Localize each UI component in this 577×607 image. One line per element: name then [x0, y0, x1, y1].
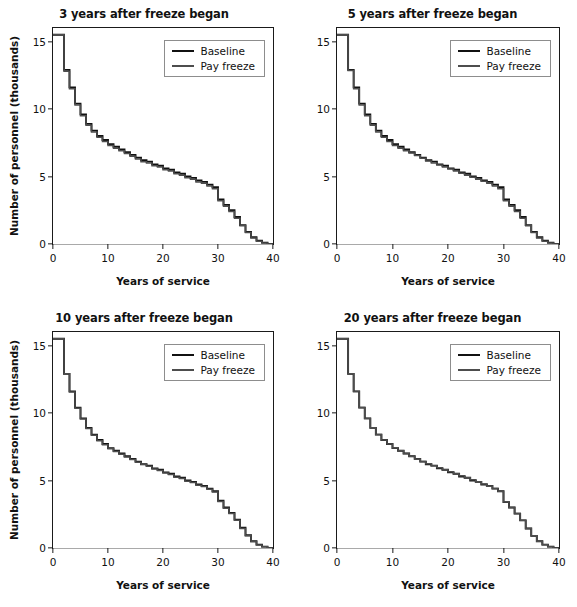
legend-label: Pay freeze [200, 365, 255, 376]
panel-20-years: 20 years after freeze began 051015010203… [288, 304, 577, 607]
plot-area: 051015010203040BaselinePay freeze [52, 27, 274, 245]
panel-10-years: 10 years after freeze began Number of pe… [0, 304, 288, 607]
legend: BaselinePay freeze [450, 344, 551, 381]
legend-item[interactable]: Baseline [458, 46, 541, 57]
x-tick-label: 30 [497, 548, 510, 568]
x-tick-label: 30 [211, 548, 224, 568]
y-axis-label-text: Number of personnel (thousands) [8, 340, 20, 540]
legend-label: Baseline [200, 46, 245, 57]
legend-line-swatch-icon [172, 50, 194, 52]
x-tick-label: 40 [552, 548, 565, 568]
legend-line-swatch-icon [458, 354, 480, 356]
x-tick-label: 30 [211, 244, 224, 264]
legend-label: Baseline [200, 350, 245, 361]
panel-5-years: 5 years after freeze began 0510150102030… [288, 0, 577, 304]
y-tick-label: 5 [39, 475, 53, 487]
legend-item[interactable]: Pay freeze [458, 61, 541, 72]
legend: BaselinePay freeze [450, 40, 551, 77]
legend-label: Pay freeze [200, 61, 255, 72]
legend-label: Pay freeze [486, 61, 541, 72]
legend-label: Baseline [486, 350, 531, 361]
panel-title: 5 years after freeze began [288, 7, 577, 21]
plot-area: 051015010203040BaselinePay freeze [336, 331, 560, 549]
y-axis-label: Number of personnel (thousands) [6, 331, 22, 549]
x-tick-label: 0 [50, 548, 57, 568]
legend-item[interactable]: Baseline [172, 350, 255, 361]
x-tick-label: 10 [101, 244, 114, 264]
x-axis-label: Years of service [336, 579, 560, 591]
y-axis-label-text: Number of personnel (thousands) [8, 36, 20, 236]
y-tick-label: 5 [323, 171, 337, 183]
panel-title: 20 years after freeze began [288, 311, 577, 325]
legend-line-swatch-icon [172, 369, 194, 371]
legend-item[interactable]: Pay freeze [172, 61, 255, 72]
y-tick-label: 10 [33, 103, 53, 115]
panel-title: 10 years after freeze began [0, 311, 288, 325]
legend: BaselinePay freeze [164, 40, 265, 77]
legend-label: Pay freeze [486, 365, 541, 376]
y-tick-label: 5 [39, 171, 53, 183]
x-tick-label: 20 [156, 548, 169, 568]
x-tick-label: 40 [266, 548, 279, 568]
legend-line-swatch-icon [458, 369, 480, 371]
x-tick-label: 10 [101, 548, 114, 568]
legend-item[interactable]: Baseline [458, 350, 541, 361]
x-tick-label: 0 [50, 244, 57, 264]
y-tick-label: 15 [317, 340, 337, 352]
y-tick-label: 10 [317, 407, 337, 419]
plot-area: 051015010203040BaselinePay freeze [52, 331, 274, 549]
y-tick-label: 10 [317, 103, 337, 115]
x-tick-label: 0 [334, 548, 341, 568]
y-axis-label: Number of personnel (thousands) [6, 27, 22, 245]
y-tick-label: 15 [33, 340, 53, 352]
x-axis-label: Years of service [336, 275, 560, 287]
y-tick-label: 5 [323, 475, 337, 487]
legend-line-swatch-icon [172, 354, 194, 356]
y-tick-label: 15 [33, 36, 53, 48]
x-tick-label: 20 [156, 244, 169, 264]
legend-item[interactable]: Pay freeze [458, 365, 541, 376]
legend-item[interactable]: Pay freeze [172, 365, 255, 376]
x-tick-label: 20 [441, 548, 454, 568]
x-tick-label: 30 [497, 244, 510, 264]
x-tick-label: 10 [386, 244, 399, 264]
panel-title: 3 years after freeze began [0, 7, 288, 21]
legend-label: Baseline [486, 46, 531, 57]
x-tick-label: 40 [552, 244, 565, 264]
y-tick-label: 10 [33, 407, 53, 419]
legend-line-swatch-icon [172, 65, 194, 67]
y-tick-label: 15 [317, 36, 337, 48]
panel-3-years: 3 years after freeze began Number of per… [0, 0, 288, 304]
x-axis-label: Years of service [52, 275, 274, 287]
legend-line-swatch-icon [458, 65, 480, 67]
x-tick-label: 20 [441, 244, 454, 264]
x-axis-label: Years of service [52, 579, 274, 591]
legend: BaselinePay freeze [164, 344, 265, 381]
legend-item[interactable]: Baseline [172, 46, 255, 57]
x-tick-label: 40 [266, 244, 279, 264]
x-tick-label: 0 [334, 244, 341, 264]
legend-line-swatch-icon [458, 50, 480, 52]
figure-panel-grid: 3 years after freeze began Number of per… [0, 0, 577, 607]
plot-area: 051015010203040BaselinePay freeze [336, 27, 560, 245]
x-tick-label: 10 [386, 548, 399, 568]
